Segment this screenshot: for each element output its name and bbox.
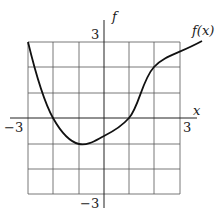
graph xyxy=(0,0,217,213)
x-min-label: −3 xyxy=(4,121,23,134)
y-max-label: 3 xyxy=(91,28,99,41)
axes xyxy=(10,20,197,208)
x-axis-label: x xyxy=(193,104,200,117)
y-min-label: −3 xyxy=(80,197,99,210)
y-axis-label: f xyxy=(112,10,117,23)
x-max-label: 3 xyxy=(183,121,191,134)
curve-label: f(x) xyxy=(192,24,214,37)
